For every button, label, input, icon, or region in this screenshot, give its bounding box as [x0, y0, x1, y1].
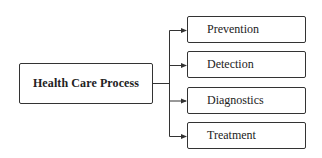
node-label: Prevention [207, 22, 259, 37]
node-detection: Detection [187, 51, 306, 78]
root-node: Health Care Process [19, 63, 153, 104]
node-label: Diagnostics [207, 93, 264, 108]
health-care-process-diagram: Health Care Process Prevention Detection… [0, 0, 322, 158]
node-prevention: Prevention [187, 16, 306, 43]
node-diagnostics: Diagnostics [187, 87, 306, 114]
node-label: Treatment [207, 128, 256, 143]
node-treatment: Treatment [187, 122, 306, 149]
root-node-label: Health Care Process [33, 76, 139, 91]
node-label: Detection [207, 57, 254, 72]
